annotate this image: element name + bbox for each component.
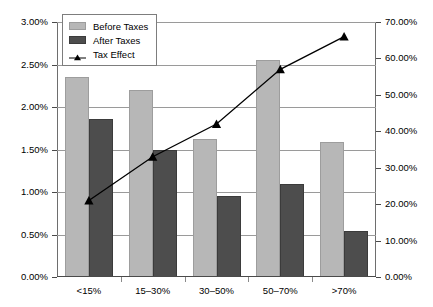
- tax-effect-marker: [276, 65, 285, 74]
- x-axis-category-label: >70%: [304, 285, 384, 296]
- legend-label-before-taxes: Before Taxes: [93, 21, 148, 32]
- left-axis-tick: [52, 277, 57, 278]
- right-axis-tick-label: 10.00%: [385, 236, 417, 246]
- x-axis-tick: [185, 277, 186, 282]
- tax-effect-marker: [340, 32, 349, 41]
- right-axis-tick: [376, 204, 381, 205]
- x-axis-tick: [248, 277, 249, 282]
- legend-swatch-before-taxes: [69, 22, 86, 30]
- legend-item-before-taxes: Before Taxes: [69, 19, 148, 33]
- right-axis-tick-label: 30.00%: [385, 163, 417, 173]
- right-axis-tick-label: 40.00%: [385, 126, 417, 136]
- legend-label-after-taxes: After Taxes: [93, 35, 140, 46]
- triangle-marker-icon: [69, 49, 86, 59]
- tax-effect-marker: [148, 152, 157, 161]
- x-axis-tick: [121, 277, 122, 282]
- tax-effect-marker: [84, 196, 93, 205]
- left-axis-tick-label: 0.50%: [0, 230, 48, 240]
- left-axis-tick-label: 0.00%: [0, 272, 48, 282]
- right-axis-tick-label: 0.00%: [385, 272, 412, 282]
- left-axis-tick-label: 1.50%: [0, 145, 48, 155]
- right-axis-tick: [376, 241, 381, 242]
- legend-item-tax-effect: Tax Effect: [69, 47, 148, 61]
- x-axis-line: [57, 276, 376, 277]
- x-axis-tick: [312, 277, 313, 282]
- right-axis-tick: [376, 95, 381, 96]
- legend-label-tax-effect: Tax Effect: [93, 49, 135, 60]
- right-axis-tick: [376, 277, 381, 278]
- right-axis-tick: [376, 58, 381, 59]
- tax-effect-chart: 0.00%0.50%1.00%1.50%2.00%2.50%3.00% 0.00…: [0, 0, 433, 307]
- right-axis-tick-label: 60.00%: [385, 53, 417, 63]
- left-axis-tick-label: 2.00%: [0, 102, 48, 112]
- left-axis-tick-label: 2.50%: [0, 60, 48, 70]
- right-axis-tick: [376, 131, 381, 132]
- legend-item-after-taxes: After Taxes: [69, 33, 148, 47]
- right-axis-tick-label: 50.00%: [385, 90, 417, 100]
- right-axis-tick: [376, 22, 381, 23]
- right-axis-tick-label: 70.00%: [385, 17, 417, 27]
- left-axis-tick-label: 3.00%: [0, 17, 48, 27]
- chart-legend: Before Taxes After Taxes Tax Effect: [62, 14, 157, 66]
- right-axis-tick: [376, 168, 381, 169]
- left-axis-tick-label: 1.00%: [0, 187, 48, 197]
- legend-swatch-after-taxes: [69, 36, 86, 44]
- right-axis-tick-label: 20.00%: [385, 199, 417, 209]
